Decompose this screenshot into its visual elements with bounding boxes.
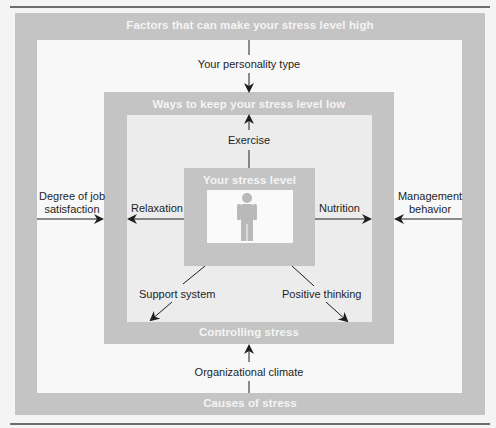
cause-management-behavior-line2: behavior xyxy=(394,203,466,216)
control-nutrition: Nutrition xyxy=(319,202,360,215)
cause-job-satisfaction-line1: Degree of job xyxy=(36,190,108,203)
center-box-content-area xyxy=(207,190,293,243)
middle-box-top-label: Ways to keep your stress level low xyxy=(104,97,394,111)
control-support-system: Support system xyxy=(139,288,215,301)
cause-personality-type: Your personality type xyxy=(170,58,328,71)
outer-box-bottom-label: Causes of stress xyxy=(15,396,485,410)
cause-organizational-climate: Organizational climate xyxy=(170,366,328,379)
center-box-label: Your stress level xyxy=(184,173,315,187)
control-positive-thinking: Positive thinking xyxy=(282,288,362,301)
person-icon xyxy=(207,190,293,243)
cause-management-behavior-line1: Management xyxy=(394,190,466,203)
bottom-rule xyxy=(10,423,490,425)
control-relaxation: Relaxation xyxy=(131,202,183,215)
cause-job-satisfaction-line2: satisfaction xyxy=(36,203,108,216)
middle-box-bottom-label: Controlling stress xyxy=(104,325,394,339)
top-rule xyxy=(10,6,490,8)
outer-box-top-label: Factors that can make your stress level … xyxy=(15,18,485,32)
control-exercise: Exercise xyxy=(210,134,288,147)
